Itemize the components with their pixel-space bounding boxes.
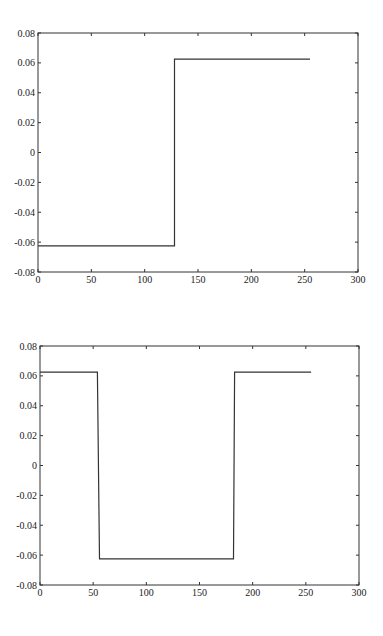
- y-tick-label: 0.06: [20, 370, 38, 381]
- y-tick-label: 0: [32, 460, 37, 471]
- x-tick-label: 200: [244, 274, 259, 285]
- y-tick-label: 0.06: [18, 57, 36, 68]
- x-tick-label: 100: [139, 587, 154, 598]
- bottom-chart: 050100150200250300-0.08-0.06-0.04-0.0200…: [16, 341, 366, 599]
- data-line: [38, 59, 310, 246]
- x-tick-label: 250: [297, 274, 312, 285]
- y-tick-label: 0.04: [18, 87, 36, 98]
- axes-frame: [40, 346, 359, 585]
- x-tick-label: 300: [352, 587, 367, 598]
- y-tick-label: -0.04: [14, 207, 35, 218]
- y-tick-label: 0.08: [18, 28, 36, 39]
- y-tick-label: -0.06: [14, 237, 35, 248]
- axes-frame: [38, 33, 358, 272]
- y-tick-label: -0.06: [16, 550, 37, 561]
- y-tick-label: 0: [30, 147, 35, 158]
- x-tick-label: 150: [192, 587, 207, 598]
- x-tick-label: 100: [137, 274, 152, 285]
- x-tick-label: 0: [38, 587, 43, 598]
- data-line: [40, 372, 311, 559]
- x-tick-label: 150: [191, 274, 206, 285]
- y-tick-label: 0.08: [20, 341, 38, 352]
- y-tick-label: 0.04: [20, 400, 38, 411]
- x-tick-label: 50: [86, 274, 96, 285]
- y-tick-label: -0.08: [16, 580, 37, 591]
- x-tick-label: 300: [351, 274, 366, 285]
- x-tick-label: 0: [36, 274, 41, 285]
- x-tick-label: 50: [88, 587, 98, 598]
- figure-canvas: 050100150200250300-0.08-0.06-0.04-0.0200…: [0, 0, 383, 636]
- y-tick-label: -0.02: [14, 177, 35, 188]
- y-tick-label: 0.02: [20, 430, 38, 441]
- x-tick-label: 250: [298, 587, 313, 598]
- x-tick-label: 200: [245, 587, 260, 598]
- top-chart: 050100150200250300-0.08-0.06-0.04-0.0200…: [14, 28, 365, 286]
- y-tick-label: 0.02: [18, 117, 36, 128]
- y-tick-label: -0.04: [16, 520, 37, 531]
- y-tick-label: -0.08: [14, 267, 35, 278]
- y-tick-label: -0.02: [16, 490, 37, 501]
